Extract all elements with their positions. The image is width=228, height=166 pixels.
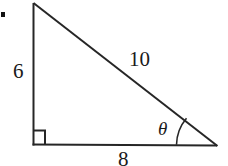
side-label-horizontal-leg: 8 (118, 149, 129, 166)
hypotenuse-line (34, 3, 218, 146)
side-label-hypotenuse: 10 (129, 49, 150, 70)
horizontal-leg-line (33, 145, 218, 146)
triangle-drawing (0, 0, 228, 166)
triangle-figure: 6 10 8 θ (0, 0, 228, 166)
side-label-vertical-leg: 6 (13, 61, 24, 82)
angle-label-theta: θ (158, 119, 167, 138)
angle-arc-icon (177, 118, 187, 145)
right-angle-marker-icon (34, 131, 45, 145)
